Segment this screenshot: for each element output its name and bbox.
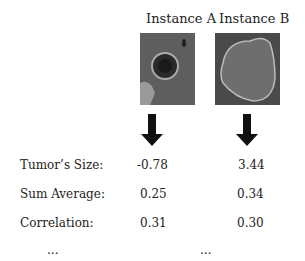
row-label: Tumor’s Size:	[20, 158, 103, 172]
value-b: 0.34	[237, 187, 264, 201]
row-label: Sum Average:	[20, 187, 105, 201]
value-b: 0.30	[237, 216, 264, 230]
diagram: Instance A Instance B Tumor’s Size: -0.7…	[0, 0, 305, 261]
ellipsis: ...	[200, 243, 211, 257]
instance-b-title: Instance B	[219, 11, 289, 26]
arrow-down-icon	[141, 114, 163, 146]
instance-a-image	[140, 33, 195, 105]
value-a: -0.78	[137, 158, 168, 172]
instance-b-image	[215, 33, 280, 105]
value-b: 3.44	[238, 158, 265, 172]
value-a: 0.25	[140, 187, 167, 201]
arrow-down-icon	[236, 114, 258, 146]
instance-a-title: Instance A	[146, 11, 216, 26]
row-label: Correlation:	[20, 216, 94, 230]
value-a: 0.31	[140, 216, 167, 230]
ellipsis: ...	[47, 243, 58, 257]
